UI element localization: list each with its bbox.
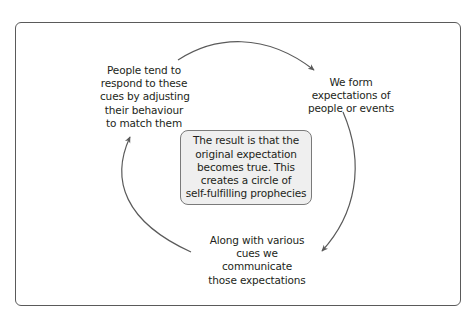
node-text-line: those expectations — [196, 274, 318, 287]
node-text-line: to match them — [100, 117, 188, 130]
center-text-line: The result is that the — [186, 134, 307, 147]
arrow-right-to-bottom — [322, 112, 355, 251]
node-text-line: cues we — [196, 247, 318, 260]
node-adjust-behaviour: People tend to respond to these cues by … — [100, 64, 188, 130]
arrow-left-to-right — [178, 42, 314, 70]
node-text-line: cues by adjusting — [100, 90, 188, 103]
center-result-box: The result is that the original expectat… — [180, 130, 312, 205]
center-text-line: creates a circle of — [186, 174, 307, 187]
node-text-line: respond to these — [100, 77, 188, 90]
center-text: The result is that the original expectat… — [186, 134, 307, 200]
center-text-line: becomes true. This — [186, 161, 307, 174]
node-form-expectations: We form expectations of people or events — [295, 76, 407, 116]
node-text-line: Along with various — [196, 234, 318, 247]
node-text-line: people or events — [295, 102, 407, 115]
node-text-line: People tend to — [100, 64, 188, 77]
node-communicate-expectations: Along with various cues we communicate t… — [196, 234, 318, 287]
center-text-line: original expectation — [186, 148, 307, 161]
node-text-line: We form — [295, 76, 407, 89]
node-text-line: communicate — [196, 260, 318, 273]
center-text-line: self-fulfilling prophecies — [186, 187, 307, 200]
node-text-line: their behaviour — [100, 104, 188, 117]
node-text-line: expectations of — [295, 89, 407, 102]
